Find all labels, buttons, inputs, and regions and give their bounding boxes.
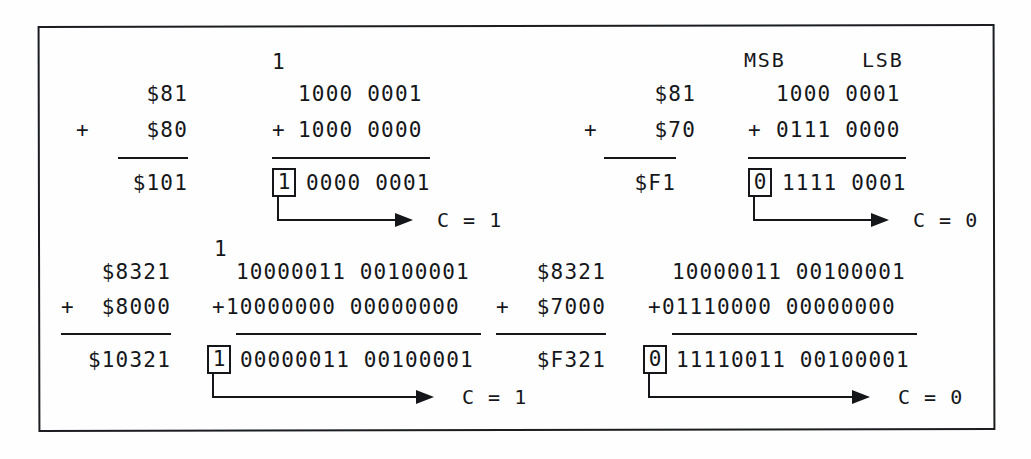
ex3-hex-augend: $8321 — [73, 262, 171, 283]
ex2-bin-plus-sign: + — [748, 120, 762, 141]
ex4-carry-arrow — [648, 374, 878, 404]
ex1-bin-augend: 1000 0001 — [298, 84, 423, 105]
ex3-hex-addend: $8000 — [73, 297, 171, 318]
ex4-hex-sum-rule — [496, 333, 606, 335]
ex2-bin-sum-rule — [748, 157, 906, 159]
ex4-hex-augend: $8321 — [508, 262, 606, 283]
figure-canvas: $81 + $80 $101 1 1000 0001 + 1000 0000 1… — [0, 0, 1031, 459]
ex1-hex-plus-sign: + — [76, 120, 90, 141]
lsb-label: LSB — [862, 50, 904, 70]
msb-label: MSB — [744, 50, 786, 70]
ex1-bin-carry-out-box: 1 — [272, 168, 296, 197]
ex2-hex-augend: $81 — [626, 84, 696, 105]
ex2-hex-plus-sign: + — [584, 120, 598, 141]
ex4-carry-flag: C = 0 — [898, 387, 963, 407]
ex3-carry-arrow — [212, 374, 442, 404]
ex1-bin-addend: 1000 0000 — [298, 120, 423, 141]
ex1-carry-flag: C = 1 — [437, 210, 502, 230]
ex4-bin-sum: 11110011 00100001 — [676, 350, 910, 371]
ex3-hex-sum-rule — [61, 333, 171, 335]
ex4-bin-addend: 01110000 00000000 — [662, 297, 896, 318]
ex1-carry-arrow — [277, 197, 417, 227]
ex4-hex-sum: $F321 — [496, 350, 606, 371]
ex3-bin-augend: 10000011 00100001 — [236, 262, 470, 283]
ex4-bin-plus-sign: + — [648, 297, 662, 318]
ex1-hex-sum: $101 — [108, 173, 188, 194]
ex3-bin-addend: 10000000 00000000 — [226, 297, 460, 318]
ex4-bin-sum-rule — [672, 333, 917, 335]
ex3-bin-carry-in: 1 — [214, 239, 227, 260]
ex4-hex-addend: $7000 — [508, 297, 606, 318]
ex1-bin-sum: 0000 0001 — [306, 173, 431, 194]
ex2-carry-arrow — [753, 197, 893, 227]
ex3-carry-flag: C = 1 — [462, 387, 527, 407]
ex2-bin-carry-out-box: 0 — [748, 168, 772, 197]
ex3-bin-sum-rule — [236, 333, 481, 335]
ex2-bin-augend: 1000 0001 — [776, 84, 901, 105]
ex2-bin-addend: 0111 0000 — [776, 120, 901, 141]
ex2-hex-sum-rule — [604, 157, 676, 159]
ex1-bin-carry-in: 1 — [272, 52, 285, 73]
ex3-hex-sum: $10321 — [61, 350, 171, 371]
ex2-hex-sum: $F1 — [616, 173, 676, 194]
ex1-hex-sum-rule — [118, 157, 188, 159]
ex2-carry-flag: C = 0 — [913, 210, 978, 230]
ex1-hex-augend: $81 — [118, 84, 188, 105]
ex4-bin-carry-out-box: 0 — [643, 345, 667, 374]
ex1-hex-addend: $80 — [118, 120, 188, 141]
ex3-bin-carry-out-box: 1 — [207, 345, 231, 374]
ex3-bin-sum: 00000011 00100001 — [240, 350, 474, 371]
ex1-bin-plus-sign: + — [272, 120, 286, 141]
ex4-bin-augend: 10000011 00100001 — [672, 262, 906, 283]
ex2-bin-sum: 1111 0001 — [782, 173, 907, 194]
ex3-bin-plus-sign: + — [212, 297, 226, 318]
ex2-hex-addend: $70 — [626, 120, 696, 141]
ex1-bin-sum-rule — [272, 157, 430, 159]
